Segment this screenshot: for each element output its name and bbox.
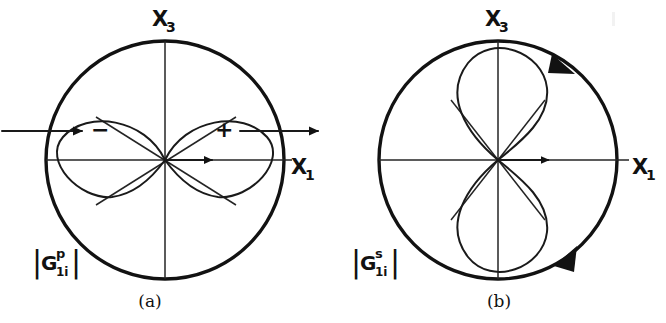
lobe-sign-negative-a: − (91, 117, 109, 142)
radiation-pattern-figure: X 3 X 1 − + | G p 1i | (a) (0, 0, 666, 323)
glabel-superscript-a: p (56, 246, 65, 261)
lobe-negative-a (57, 121, 165, 197)
axis-sub-x1-b: 1 (646, 167, 656, 183)
glabel-base-b: G (360, 251, 376, 275)
axis-sub-x3-a: 3 (166, 19, 176, 35)
caption-a: (a) (138, 291, 161, 311)
scan-artifact (612, 12, 615, 26)
circle-arrowhead-lower-right-b (554, 246, 577, 272)
panel-b: X 3 X 1 | G s 1i | (b) (333, 0, 666, 323)
glabel-bar-right-b: | (390, 244, 400, 280)
panel-a: X 3 X 1 − + | G p 1i | (a) (0, 0, 333, 323)
lobe-upper-b (457, 48, 547, 160)
glabel-superscript-b: s (375, 246, 383, 261)
glabel-subscript-b: 1i (375, 265, 387, 279)
lobe-lower-b (457, 160, 547, 272)
glabel-bar-right-a: | (71, 244, 81, 280)
glabel-subscript-a: 1i (56, 265, 68, 279)
lobe-sign-positive-a: + (215, 117, 233, 142)
axis-sub-x1-a: 1 (305, 167, 315, 183)
axis-sub-x3-b: 3 (499, 19, 509, 35)
glabel-base-a: G (41, 251, 57, 275)
caption-b: (b) (487, 291, 511, 311)
